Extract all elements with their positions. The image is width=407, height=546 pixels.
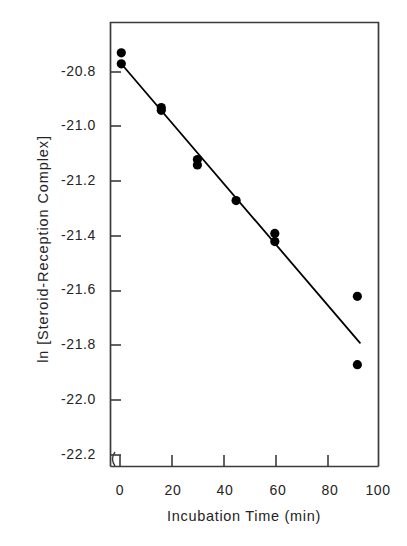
regression-line	[121, 64, 360, 343]
data-point	[353, 292, 362, 301]
data-point	[270, 229, 279, 238]
data-point	[117, 48, 126, 57]
data-point	[270, 237, 279, 246]
y-axis-ticks	[111, 72, 122, 455]
plot-area	[0, 0, 407, 546]
axis-frame	[111, 23, 379, 467]
x-axis-ticks	[120, 455, 328, 467]
data-point	[232, 196, 241, 205]
axis-break-mark	[113, 452, 116, 466]
chart-figure: ln [Steroid-Reception Complex] Incubatio…	[0, 0, 407, 546]
data-point	[353, 360, 362, 369]
data-point	[193, 160, 202, 169]
data-point-group	[117, 48, 362, 369]
data-point	[157, 106, 166, 115]
data-point	[117, 59, 126, 68]
